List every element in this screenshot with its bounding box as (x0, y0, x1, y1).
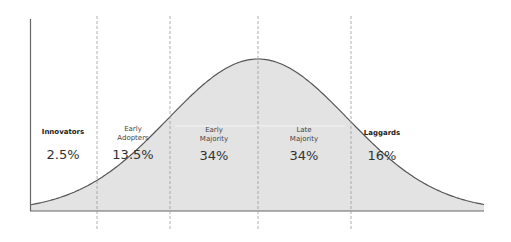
category-name-line2: Adopters (112, 134, 153, 143)
category-percent: 34% (200, 148, 229, 163)
label-early-majority: Early Majority 34% (200, 126, 229, 163)
curve-fill (30, 59, 484, 211)
category-name-line1: Late (290, 126, 319, 135)
category-percent: 34% (290, 148, 319, 163)
category-percent: 16% (364, 148, 401, 163)
label-late-majority: Late Majority 34% (290, 126, 319, 163)
category-name-line1: Early (200, 126, 229, 135)
category-percent: 2.5% (42, 147, 84, 162)
category-name: Innovators (42, 128, 84, 137)
category-percent: 13.5% (112, 147, 153, 162)
category-name-line1: Early (112, 125, 153, 134)
label-early-adopters: Early Adopters 13.5% (112, 125, 153, 162)
category-name-line2: Majority (200, 135, 229, 144)
label-innovators: Innovators 2.5% (42, 128, 84, 162)
category-name-line2: Majority (290, 135, 319, 144)
category-name: Laggards (364, 129, 401, 138)
label-laggards: Laggards 16% (364, 129, 401, 163)
bell-curve-chart (0, 0, 511, 242)
